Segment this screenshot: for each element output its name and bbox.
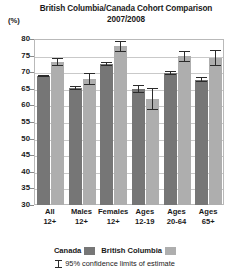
x-axis-label-line2: 20-64	[161, 217, 193, 227]
x-axis-label-line2: 12+	[97, 217, 129, 227]
chart-legend: Canada British Columbia	[0, 246, 230, 255]
y-axis-tick-label: 65	[4, 85, 30, 93]
bar-canada	[37, 76, 50, 205]
y-axis-tick-label: 30	[4, 201, 30, 209]
x-axis-label: Ages12-19	[129, 207, 161, 227]
x-axis-label-line2: 12-19	[129, 217, 161, 227]
x-axis-label-line2: 65+	[192, 217, 224, 227]
chart-title: British Columbia/Canada Cohort Compariso…	[26, 4, 226, 25]
y-axis-tick-label: 80	[4, 35, 30, 43]
footnote-text: 95% confidence limits of estimate	[65, 259, 175, 268]
x-axis-label: Males12+	[66, 207, 98, 227]
y-axis-tick-label: 60	[4, 101, 30, 109]
bar-canada	[69, 88, 82, 205]
bar-bc	[209, 58, 222, 205]
bar-canada	[132, 89, 145, 205]
x-axis-label-line1: All	[45, 207, 55, 216]
chart-container: British Columbia/Canada Cohort Compariso…	[0, 0, 230, 273]
x-axis-labels: All12+Males12+Females12+Ages12-19Ages20-…	[34, 207, 224, 233]
y-axis-unit-label: (%)	[8, 16, 20, 25]
y-axis: 8075706560555045403530	[0, 39, 30, 205]
y-axis-tick-label: 75	[4, 52, 30, 60]
legend-swatch-british-columbia	[165, 247, 176, 255]
y-axis-tick-label: 35	[4, 184, 30, 192]
y-axis-tick-label: 55	[4, 118, 30, 126]
bar-groups-layer	[34, 39, 224, 205]
y-axis-tick-label: 50	[4, 135, 30, 143]
x-axis-label-line1: Ages	[199, 207, 218, 216]
y-axis-tick-label: 40	[4, 168, 30, 176]
chart-title-main: British Columbia/Canada Cohort Compariso…	[40, 4, 212, 13]
bar-group	[131, 39, 159, 205]
legend-label-british-columbia: British Columbia	[101, 246, 162, 255]
bar-bc	[114, 46, 127, 205]
legend-label-canada: Canada	[54, 246, 81, 255]
chart-footnote: 95% confidence limits of estimate	[0, 259, 230, 268]
y-axis-tick-label: 70	[4, 68, 30, 76]
bar-bc	[178, 56, 191, 205]
x-axis-label: Females12+	[97, 207, 129, 227]
bar-bc	[83, 79, 96, 205]
x-axis-label-line2: 12+	[66, 217, 98, 227]
bar-group	[68, 39, 96, 205]
bar-canada	[195, 80, 208, 205]
bar-canada	[100, 64, 113, 205]
x-axis-label-line1: Females	[98, 207, 128, 216]
x-axis-label-line2: 12+	[34, 217, 66, 227]
y-axis-tick-label: 45	[4, 151, 30, 159]
legend-swatch-canada	[84, 247, 95, 255]
x-axis-label-line1: Males	[71, 207, 92, 216]
x-axis-label: Ages65+	[192, 207, 224, 227]
x-axis-label-line1: Ages	[136, 207, 155, 216]
x-axis-label: Ages20-64	[161, 207, 193, 227]
legend-entry-british-columbia: British Columbia	[101, 246, 176, 255]
bar-canada	[164, 73, 177, 205]
x-axis-label: All12+	[34, 207, 66, 227]
legend-entry-canada: Canada	[54, 246, 95, 255]
error-bar-icon	[55, 260, 62, 268]
chart-title-subtitle: 2007/2008	[107, 15, 145, 24]
y-axis-tick-mark	[30, 205, 34, 206]
bar-bc	[146, 99, 159, 205]
bar-group	[36, 39, 64, 205]
bar-bc	[51, 62, 64, 205]
bar-group	[194, 39, 222, 205]
bar-group	[99, 39, 127, 205]
bar-group	[163, 39, 191, 205]
x-axis-label-line1: Ages	[167, 207, 186, 216]
